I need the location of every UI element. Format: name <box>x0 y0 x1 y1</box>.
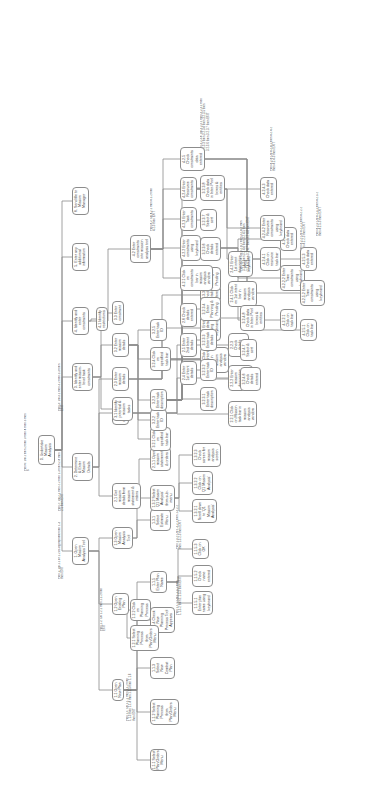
connector-line <box>126 345 150 359</box>
task-node: 4.2.2.1 Click on task bar <box>280 309 297 331</box>
task-node: 1.3 Open Mission Analysis Tool <box>112 527 133 549</box>
plan-annotation: Plan 4.2.4: Do 4.2.4.1 then 4.2.4.2 then… <box>270 123 284 171</box>
task-node: 3.2.3.1 Enter task description <box>200 387 217 411</box>
task-node: 1.1.2 Select Planning Process from Plan/… <box>150 699 179 725</box>
task-node: 2.6 Check details entered <box>180 303 197 327</box>
plan-annotation: Plan 3: Do 3.1 then 3.2 then 3.3 then EX… <box>58 361 66 411</box>
task-node: 3.2.4.7 Select & sort <box>240 339 257 361</box>
plan-annotation: Plan 1.2: Do 1.2.1 then 1.2.2 then EXIT <box>100 587 108 631</box>
plan-annotation: Plan 3.2.4: Do 3.2.4.1 then 3.2.4.2 then… <box>240 215 258 271</box>
connector-line <box>126 330 150 345</box>
task-node: 3. Identify and enter mission-level task… <box>72 363 93 391</box>
plan-annotation: Plan 1: Do 1.1 or 1.2 as appropriate the… <box>58 519 68 579</box>
task-node: 1.2.2 Click on Planning Process <box>130 599 151 621</box>
plan-annotation: Plan 1.1: Do 1.1.1 then 1.1.2 then 1.1.3… <box>126 673 140 721</box>
task-node: 4.2.4.3 Check data entered <box>260 177 277 201</box>
task-node: 3.1 Identify potential & mission tasks <box>112 397 133 421</box>
task-node: 1.1.1 Select Plan/Orders Menu <box>150 749 167 771</box>
task-node: 3.2.5 Enter task ID <box>150 319 167 341</box>
connector-line <box>86 538 112 551</box>
task-node: 1.1.5.1 Enter plan name using keyboard <box>192 591 213 615</box>
connector-line <box>86 551 112 604</box>
plan-annotation: Plan 0: Do 1 then 2 then 3 then 4 then 5… <box>24 411 32 471</box>
task-node: 4.2.5.3 Check data entered <box>300 247 317 271</box>
task-node: 1.3.1 Select Estimate Menu <box>150 509 171 531</box>
connector-line <box>146 249 180 278</box>
task-node: 4.2.5.1 Click on task bar <box>300 319 317 341</box>
task-node: 3.2.3.7 Select & sort <box>200 209 217 231</box>
task-node: 3.2.2 Enter task ID <box>150 409 167 431</box>
connector-line <box>52 201 72 450</box>
plan-annotation: Plan 4.2: Do 4.2.1 then 4.2.2 then 4.2.3… <box>150 181 164 231</box>
task-node: 3.2.4.8 Check data in Inter-Pool boxes &… <box>240 305 265 331</box>
task-node: 4.2.5 Check constraints data entered <box>180 147 205 171</box>
connector-line <box>90 377 112 409</box>
task-node: 2.1 Get mission details from mission sta… <box>112 483 141 509</box>
task-node: 4.2.1 Click on constraints bar in missio… <box>180 265 213 291</box>
task-node: 4.1 Identify restrictions <box>96 307 108 331</box>
task-node: 4.2 Enter constraints into mission analy… <box>130 235 151 263</box>
task-node: 4.2.5.2 Enter Time constraints using key… <box>300 280 325 306</box>
task-node: 1.1.5.3 Click on OK <box>192 539 209 559</box>
task-node: 3.3 Enter constraint <box>112 301 124 325</box>
task-node: 1.2.1 Select Planning Process from Plan/… <box>130 625 159 651</box>
task-node: 1.1.3 Select New Combat Plan <box>150 657 175 679</box>
task-node: 2.4 Enter 1st Intent details <box>180 361 197 385</box>
task-node: 1.1.5.2 Check name entered <box>192 565 213 587</box>
task-node: 3.2.4.6 Check details entered <box>240 367 261 391</box>
task-node: 2. Determine & Enter Mission Details <box>72 453 93 481</box>
task-node: 3.2.4 Click on specified task bar <box>150 347 171 371</box>
task-node: 4.2.4.2 Enter Resource constraints using… <box>260 215 285 241</box>
task-node: 0. Undertake Mission Analysis <box>38 435 55 465</box>
task-node: 2.3 Enter mission details <box>112 367 129 391</box>
task-node: 3.2.3 Enter task description <box>150 389 167 411</box>
task-node: 3.2.3.6 Check details entered <box>200 237 221 261</box>
task-node: 1.3.2.2 Click on 'Q1 Mission Analysis' <box>192 471 213 495</box>
plan-annotation: Plan 4.2.5: Do 4.2.5.1 then 4.2.5.2 then… <box>316 188 330 236</box>
task-node: 6. Send file to Mission Manager <box>72 187 89 215</box>
task-node: 1.1.5 Enter Plan Name <box>150 571 167 593</box>
task-node: 3.2.3.2 Enter task ID <box>200 359 217 381</box>
plan-annotation: Plan 2: Do 2.1 then 2.2 then 2.3 then 2.… <box>58 449 68 511</box>
task-node: 4.2.2 Enter constraints using keyboard <box>180 235 201 261</box>
task-node: 2.5 Enter 2nd Intent details <box>180 333 197 357</box>
task-node: 4.2.4.1 Click on resource task bar <box>260 247 281 271</box>
task-node: 1.3.2 Select 'Q1 Mission Analysis' from … <box>150 485 175 511</box>
task-node: 4.2.4 Enter Resource constraints <box>180 177 197 201</box>
task-node: 3.2.3.8 Check data in Inter-Pool boxes &… <box>200 175 225 201</box>
task-node: 1.1 Open New Plan <box>112 679 124 701</box>
task-node: 3.2 Enter mission details <box>112 333 129 357</box>
task-node: 5. Enter any additional information <box>72 243 89 271</box>
plan-annotation: Plan 4.2.2: Do 4.2.2.1 then 4.2.2.2 then… <box>300 203 314 251</box>
task-node: 1.3.2.3 Check screen for mission analysi… <box>192 443 221 467</box>
task-node: 4.2.3 Enter Task constraints <box>180 207 197 231</box>
plan-annotation: Plan 1.1.5: Do 1.1.5.1 then 1.1.5.2 then… <box>176 571 188 615</box>
task-node: 4. Identify and enter constraints <box>72 307 89 335</box>
task-node: 1.3.2.1 Scroll down to 'Q1 Mission Analy… <box>192 499 217 523</box>
task-node: 3.2.3.3 Enter task details <box>200 329 217 351</box>
plan-annotation: Plan 3.2.3.8: Do 3.2.3.1 then 3.2.3.2 th… <box>200 95 218 151</box>
task-node: 1. Open Mission Analysis Tool <box>72 537 89 565</box>
task-node: 3.2.3.4 Enter Planning & Pending <box>200 297 221 321</box>
plan-annotation: Plan 1.3.2: Do 1.3.2.1 then 1.3.2.2 then… <box>176 499 188 549</box>
task-node: 1.2 Open Existing Plan <box>112 593 129 615</box>
hta-diagram-canvas: 0. Undertake Mission AnalysisPlan 0: Do … <box>0 0 391 811</box>
task-node: 2.2.1 Click on Mission task bar in missi… <box>228 401 257 427</box>
task-node: 2.4.1 Click on 1st intent bar in mission… <box>228 281 257 307</box>
